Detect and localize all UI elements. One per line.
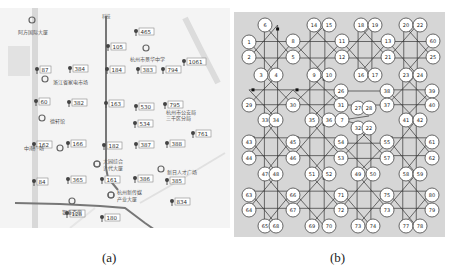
graph-node: 16 — [354, 68, 368, 82]
poi-icon — [42, 76, 48, 82]
node-label: 73 — [355, 223, 361, 229]
map-marker: 384 — [68, 65, 88, 73]
map-marker: 530 — [134, 103, 154, 111]
graph-node: 31 — [334, 98, 348, 112]
node-label: 47 — [262, 171, 268, 177]
graph-node: 50 — [366, 167, 380, 181]
node-label: 35 — [309, 117, 315, 123]
graph-panel: 1268534141591011121819161713212022232460… — [234, 12, 445, 237]
marker-label: 180 — [107, 215, 118, 221]
node-label: 55 — [384, 139, 390, 145]
map-marker: 382 — [67, 99, 87, 107]
node-label: 10 — [326, 72, 332, 78]
pin-icon — [68, 66, 72, 70]
marker-label: 384 — [75, 66, 86, 72]
node-label: 2 — [247, 54, 250, 60]
node-label: 64 — [246, 207, 252, 213]
graph-node: 24 — [413, 68, 427, 82]
pin-icon — [161, 67, 165, 71]
poi-label: 银泰百货 — [62, 209, 82, 216]
node-label: 80 — [429, 192, 435, 198]
graph-node: 77 — [399, 219, 413, 233]
node-label: 4 — [274, 72, 277, 78]
marker-label: 834 — [177, 199, 188, 205]
node-label: 69 — [309, 223, 315, 229]
pin-icon — [134, 142, 138, 146]
marker-label: 383 — [143, 67, 154, 73]
graph-node: 73 — [351, 219, 365, 233]
graph-node: 41 — [399, 113, 413, 127]
marker-label: 163 — [111, 101, 122, 107]
node-label: 49 — [355, 171, 361, 177]
poi-label: 阿方国际大厦 — [18, 29, 48, 36]
node-label: 20 — [403, 22, 409, 28]
marker-label: 166 — [73, 141, 84, 147]
node-label: 65 — [262, 223, 268, 229]
graph-node: 55 — [380, 135, 394, 149]
node-label: 62 — [429, 155, 435, 161]
graph-node: 39 — [425, 84, 439, 98]
graph-node: 13 — [381, 34, 395, 48]
map-marker: 761 — [191, 130, 211, 138]
map-marker: 105 — [106, 43, 126, 51]
pin-icon — [133, 121, 137, 125]
graph-node: 1 — [242, 35, 256, 49]
node-label: 34 — [273, 117, 279, 123]
pin-icon — [66, 141, 70, 145]
map-marker: 387 — [134, 141, 154, 149]
map-marker: 794 — [161, 66, 181, 74]
graph-node: 23 — [399, 68, 413, 82]
pin-icon — [133, 176, 137, 180]
graph-node: 72 — [334, 203, 348, 217]
marker-label: 794 — [168, 67, 179, 73]
graph-node: 54 — [334, 135, 348, 149]
marker-label: 761 — [198, 131, 209, 137]
poi-label: 新日人才广场 — [167, 169, 197, 176]
graph-node: 10 — [322, 68, 336, 82]
node-label: 23 — [403, 72, 409, 78]
poi-label: 浙江省家电市场 — [53, 79, 88, 86]
graph-node: 29 — [242, 98, 256, 112]
node-label: 68 — [273, 223, 279, 229]
node-label: 37 — [384, 102, 390, 108]
node-label: 57 — [384, 155, 390, 161]
graph-node: 57 — [380, 151, 394, 165]
node-label: 31 — [338, 102, 344, 108]
pin-icon — [100, 215, 104, 219]
poi-icon — [143, 45, 149, 51]
node-label: 18 — [358, 22, 364, 28]
node-label: 67 — [290, 207, 296, 213]
pin-icon — [67, 100, 71, 104]
marker-label: 161 — [107, 177, 118, 183]
marker-label: 182 — [109, 143, 120, 149]
node-label: 77 — [403, 223, 409, 229]
graph-node: 79 — [425, 203, 439, 217]
graph-node: 42 — [413, 113, 427, 127]
node-label: 25 — [430, 54, 436, 60]
node-label: 48 — [273, 171, 279, 177]
graph-node: 51 — [305, 167, 319, 181]
graph-node: 45 — [286, 135, 300, 149]
poi-label: 中南广场 — [24, 145, 44, 152]
node-label: 16 — [358, 72, 364, 78]
poi-label: 产业大厦 — [117, 196, 137, 203]
graph-node: 75 — [380, 188, 394, 202]
graph-node: 52 — [322, 167, 336, 181]
marker-label: 1061 — [189, 59, 203, 65]
graph-node: 60 — [426, 34, 440, 48]
graph-node: 67 — [286, 203, 300, 217]
map-marker: 84 — [32, 178, 48, 186]
graph-node: 20 — [399, 18, 413, 32]
poi: 杭州市景华中学 — [130, 45, 165, 63]
poi-label: 三千区分局 — [166, 115, 191, 122]
node-label: 22 — [366, 125, 372, 131]
marker-label: 534 — [140, 121, 151, 127]
graph-node: 14 — [307, 18, 321, 32]
graph-node: 21 — [381, 50, 395, 64]
graph-node: 3 — [254, 68, 268, 82]
graph-node: 17 — [368, 68, 382, 82]
node-label: 60 — [430, 38, 436, 44]
node-label: 24 — [417, 72, 423, 78]
map-marker: 60 — [34, 98, 50, 106]
marker-label: 60 — [41, 99, 48, 105]
